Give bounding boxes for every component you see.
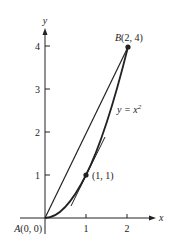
x-tick-label-2: 2 <box>125 223 130 234</box>
y-tick-label-1: 1 <box>35 170 40 181</box>
point-A-label: A(0, 0) <box>13 223 42 235</box>
diagram-canvas: 1 2 1 2 3 4 x y A(0, 0) B(2, 4) (1, 1) y… <box>0 0 169 242</box>
x-axis-label: x <box>158 212 164 223</box>
x-tick-label-1: 1 <box>84 223 89 234</box>
y-tick-label-2: 2 <box>35 127 40 138</box>
y-axis <box>43 28 51 234</box>
point-B-label: B(2, 4) <box>115 32 143 44</box>
chord-line-AB <box>45 47 128 218</box>
x-axis-arrow-icon <box>149 216 156 221</box>
point-P <box>83 172 88 177</box>
y-tick-label-3: 3 <box>35 84 40 95</box>
y-axis-arrow-icon <box>43 28 48 35</box>
curve-label: y = x2 <box>116 103 142 115</box>
y-tick-label-4: 4 <box>35 41 40 52</box>
point-B <box>125 44 130 49</box>
x-axis <box>20 214 156 221</box>
y-axis-label: y <box>42 15 48 26</box>
point-P-label: (1, 1) <box>92 170 114 182</box>
